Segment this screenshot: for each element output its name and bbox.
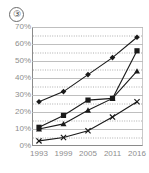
- plot-region: [32, 27, 143, 146]
- data-point-diamond-marker: [36, 99, 42, 105]
- series-square: [36, 48, 139, 130]
- y-axis-tick: 0%: [1, 142, 31, 150]
- x-axis-tick: 1993: [30, 149, 48, 158]
- data-point-x-marker: [110, 115, 115, 120]
- data-point-square-marker: [61, 113, 66, 118]
- y-axis-tick: 50%: [1, 57, 31, 65]
- data-point-triangle-marker: [134, 68, 140, 73]
- x-axis-tick: 2005: [79, 149, 97, 158]
- x-axis-tick-labels: 19931999200520112016: [32, 149, 143, 163]
- y-axis-tick: 60%: [1, 40, 31, 48]
- panel-number-label: ③: [9, 7, 24, 22]
- y-axis-tick: 10%: [1, 125, 31, 133]
- data-point-triangle-marker: [61, 121, 67, 126]
- data-point-square-marker: [85, 98, 90, 103]
- series-line: [39, 51, 137, 128]
- series-diamond: [36, 34, 140, 104]
- x-axis-tick: 1999: [55, 149, 73, 158]
- data-point-x-marker: [134, 99, 139, 104]
- y-axis-tick: 40%: [1, 74, 31, 82]
- chart-figure: ③ 0%10%20%30%40%50%60%70% 19931999200520…: [0, 0, 149, 173]
- series-line: [39, 37, 137, 102]
- y-axis-tick: 20%: [1, 108, 31, 116]
- data-point-square-marker: [134, 48, 139, 53]
- x-axis-tick: 2016: [128, 149, 146, 158]
- y-axis-tick-labels: 0%10%20%30%40%50%60%70%: [0, 27, 31, 146]
- data-point-triangle-marker: [85, 107, 91, 112]
- y-axis-tick: 70%: [1, 23, 31, 31]
- data-series-layer: [32, 27, 143, 146]
- y-axis-tick: 30%: [1, 91, 31, 99]
- x-axis-tick: 2011: [104, 149, 121, 158]
